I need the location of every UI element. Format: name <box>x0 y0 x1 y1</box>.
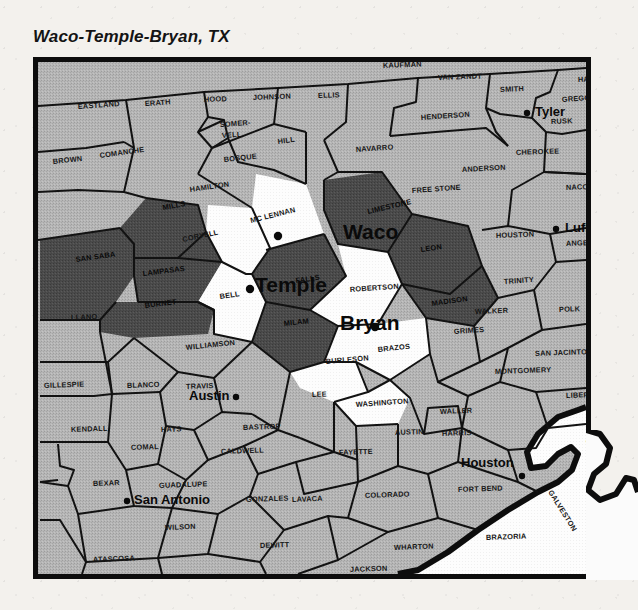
city-label: Austin <box>189 388 230 403</box>
map-canvas: EASTLANDERATHHOODJOHNSONELLISKAUFMANVAN … <box>38 62 586 574</box>
county-label: WILSON <box>165 522 196 532</box>
county-label: HARRIS <box>442 428 472 438</box>
county-label: BLANCO <box>127 380 160 390</box>
county-label: HAYS <box>161 424 182 434</box>
city-dot-icon <box>233 394 239 400</box>
county-label: CHEROKEE <box>516 146 560 157</box>
county-label: COLORADO <box>365 489 410 500</box>
county-label: SAN JACINTO <box>535 347 586 358</box>
county-label: WALKER <box>475 306 509 316</box>
county-label: GONZALES <box>246 494 289 504</box>
county-label: KARNES <box>190 572 223 574</box>
city-marker: Bryan <box>340 311 400 334</box>
city-dot-icon <box>519 473 525 479</box>
city-label: Houston <box>461 455 514 470</box>
county-label: GUADALUPE <box>159 479 208 490</box>
city-label: Waco <box>343 220 398 243</box>
county-label: HARRISON <box>578 74 586 84</box>
county-label: KAUFMAN <box>383 62 422 70</box>
county-label: JACKSON <box>350 564 388 574</box>
county-label: LIBERTY <box>566 390 586 400</box>
county-label: WALLER <box>440 406 473 416</box>
county-label: ERATH <box>145 97 171 108</box>
county-label: ANGELINA <box>566 238 586 248</box>
screenshot-page: Waco-Temple-Bryan, TX <box>0 0 638 610</box>
county-label: FORT BEND <box>458 483 504 494</box>
county-label: WHARTON <box>394 542 434 552</box>
county-label: CALDWELL <box>221 445 265 456</box>
county-label: DEWITT <box>260 540 290 550</box>
county-label: FAYETTE <box>339 447 373 457</box>
city-marker: Temple <box>246 273 327 296</box>
map-frame: EASTLANDERATHHOODJOHNSONELLISKAUFMANVAN … <box>33 57 591 579</box>
county-label: VAN ZANDT <box>438 71 483 82</box>
city-label: San Antonio <box>134 492 210 507</box>
city-dot-icon <box>553 226 559 232</box>
city-label: Temple <box>255 273 327 296</box>
county-label: GREGG <box>562 93 586 104</box>
county-label: BRAZORIA <box>486 532 527 542</box>
city-dot-icon <box>124 498 130 504</box>
city-dot-icon <box>524 110 530 116</box>
county-label: COMAL <box>131 442 160 452</box>
city-dot-icon <box>274 232 282 240</box>
county-label: ATASCOSA <box>93 554 136 564</box>
county-label: JOHNSON <box>253 92 291 102</box>
city-label: Lufkin <box>565 220 586 235</box>
county-label: SMITH <box>500 84 524 94</box>
county-label: AUSTIN <box>395 427 424 437</box>
county-label: LAVACA <box>292 494 324 504</box>
county-label: NACOGDOCHES <box>566 181 586 192</box>
city-label: Tyler <box>535 104 565 119</box>
county-label: ELLIS <box>318 90 340 100</box>
county-label: GILLESPIE <box>44 380 85 390</box>
county-label: BEXAR <box>93 478 121 488</box>
city-dot-icon <box>246 285 254 293</box>
county-label: KENDALL <box>71 424 108 434</box>
city-marker: San Antonio <box>124 492 210 507</box>
county-label: POLK <box>559 304 581 314</box>
city-label: Bryan <box>340 311 400 334</box>
county-label: HOUSTON <box>496 230 535 240</box>
texas-counties-map: EASTLANDERATHHOODJOHNSONELLISKAUFMANVAN … <box>38 62 586 574</box>
county-label: VELL <box>222 130 243 140</box>
county-label: LEE <box>312 389 327 399</box>
county-label: LLANO <box>71 312 98 322</box>
county-label: BASTROP <box>243 422 281 432</box>
county-label: HOOD <box>204 94 228 104</box>
map-title: Waco-Temple-Bryan, TX <box>33 27 230 47</box>
